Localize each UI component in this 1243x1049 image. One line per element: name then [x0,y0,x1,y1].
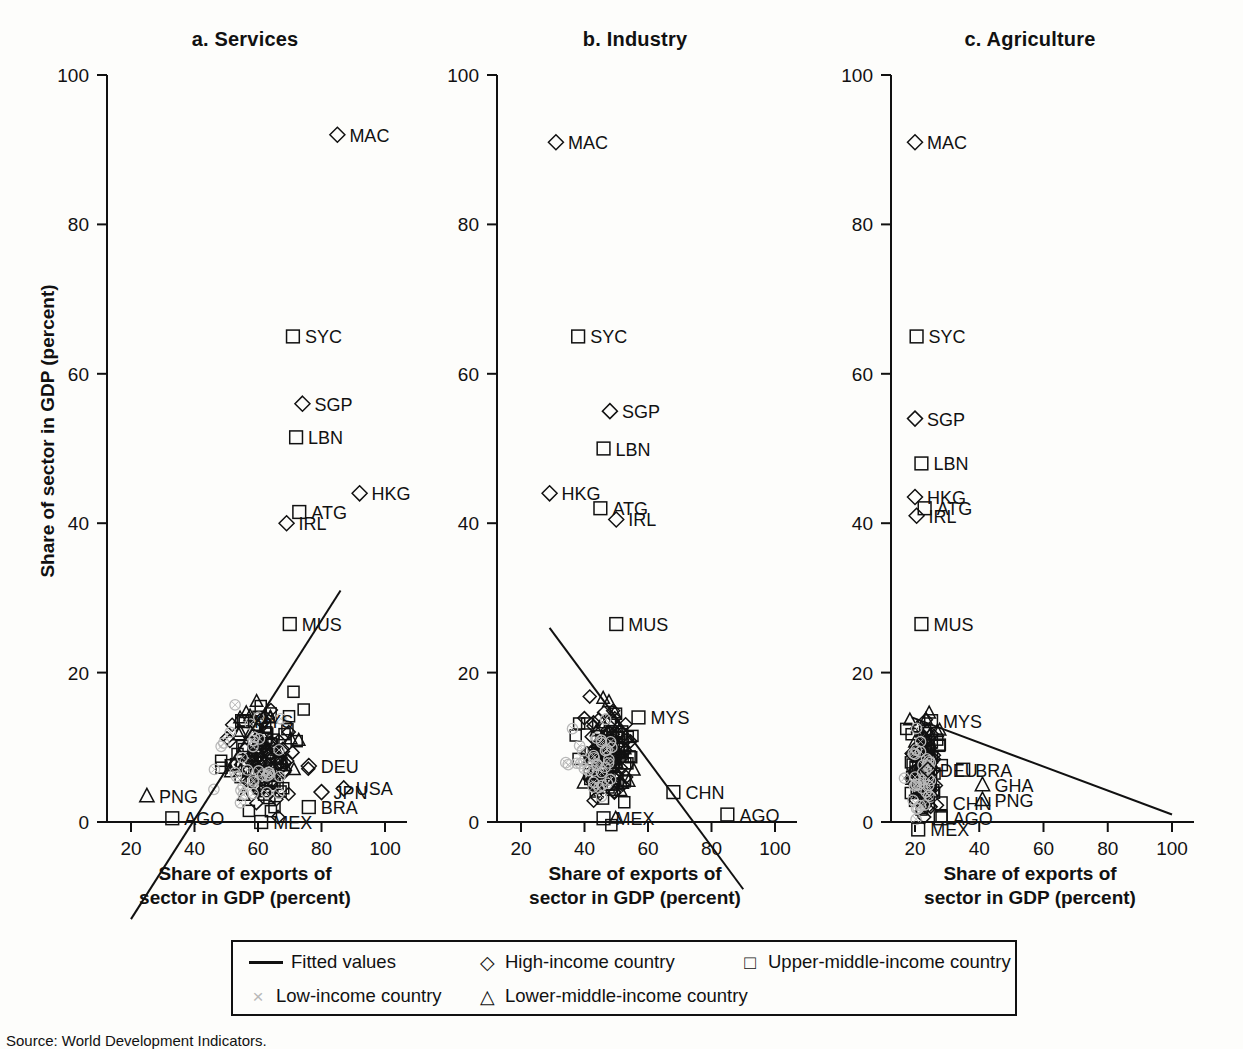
point-label: IRL [929,507,957,527]
point-label: MYS [650,708,689,728]
svg-text:40: 40 [184,838,205,859]
fitted-line-icon [249,961,283,964]
point-label: SGP [314,395,352,415]
point-label: MEX [930,820,969,840]
legend-row-1: Fitted values ◇ High-income country □ Up… [233,944,1015,980]
svg-text:80: 80 [458,214,479,235]
diamond-icon: ◇ [474,953,500,972]
point-label: MEX [273,813,312,833]
point-label: AGO [739,806,779,826]
triangle-icon: △ [474,987,500,1006]
point-label: DEU [940,761,978,781]
point-label: DEU [321,757,359,777]
legend-item-low-income: × Low-income country [245,985,474,1007]
point-label: LBN [308,428,343,448]
svg-text:20: 20 [458,663,479,684]
legend-row-2: × Low-income country △ Lower-middle-inco… [233,978,1015,1014]
fitted-line [131,590,341,919]
svg-text:100: 100 [447,65,479,86]
svg-text:60: 60 [852,364,873,385]
svg-text:20: 20 [904,838,925,859]
svg-text:100: 100 [841,65,873,86]
svg-text:60: 60 [637,838,658,859]
point-label: CHN [685,783,724,803]
svg-text:20: 20 [120,838,141,859]
svg-text:20: 20 [852,663,873,684]
svg-text:40: 40 [852,513,873,534]
legend-label-lower: Lower-middle-income country [505,985,748,1007]
point-label: SGP [622,402,660,422]
svg-text:80: 80 [311,838,332,859]
svg-text:80: 80 [68,214,89,235]
legend-label-high: High-income country [505,951,675,973]
plot-canvas: 02040608010020406080100MACSYCSGPLBNHKGAT… [0,0,1243,930]
svg-text:100: 100 [369,838,401,859]
svg-text:0: 0 [862,812,873,833]
panel-plot-services: 02040608010020406080100MACSYCSGPLBNHKGAT… [57,65,410,919]
point-label: SYC [929,327,966,347]
legend-item-high-income: ◇ High-income country [474,951,737,973]
svg-text:40: 40 [458,513,479,534]
point-label: MYS [943,712,982,732]
point-label: IRL [628,510,656,530]
point-label: MUS [302,615,342,635]
svg-text:100: 100 [759,838,791,859]
point-label: BRA [321,798,358,818]
panel-plot-agriculture: 02040608010020406080100MACSYCSGPLBNHKGAT… [841,65,1194,859]
svg-text:40: 40 [969,838,990,859]
point-label: MAC [349,126,389,146]
svg-text:0: 0 [78,812,89,833]
svg-text:0: 0 [468,812,479,833]
cross-icon: × [245,987,271,1006]
legend-item-lower-middle-income: △ Lower-middle-income country [474,985,748,1007]
panel-plot-industry: 02040608010020406080100MACSYCSGPLBNHKGAT… [447,65,797,889]
point-label: SYC [590,327,627,347]
point-label: LBN [616,440,651,460]
point-label: MAC [927,133,967,153]
svg-text:100: 100 [57,65,89,86]
point-label: LBN [933,454,968,474]
legend-item-fitted: Fitted values [249,951,474,973]
svg-text:40: 40 [68,513,89,534]
legend-item-upper-middle-income: □ Upper-middle-income country [737,951,1011,973]
legend-box: Fitted values ◇ High-income country □ Up… [231,940,1017,1016]
point-label: HKG [372,484,411,504]
point-label: MUS [628,615,668,635]
svg-text:20: 20 [510,838,531,859]
svg-text:40: 40 [574,838,595,859]
point-label: MUS [933,615,973,635]
point-label: SYC [305,327,342,347]
svg-text:20: 20 [68,663,89,684]
svg-text:80: 80 [1097,838,1118,859]
svg-text:60: 60 [1033,838,1054,859]
svg-text:60: 60 [247,838,268,859]
point-label: MEX [616,809,655,829]
legend-label-upper: Upper-middle-income country [768,951,1011,973]
source-note: Source: World Development Indicators. [6,1032,267,1049]
square-icon: □ [737,953,763,972]
point-label: PNG [159,787,198,807]
point-label: PNG [994,791,1033,811]
legend-label-fitted: Fitted values [291,951,396,973]
point-label: SGP [927,410,965,430]
svg-text:80: 80 [852,214,873,235]
point-label: MAC [568,133,608,153]
legend-label-low: Low-income country [276,985,442,1007]
svg-text:60: 60 [458,364,479,385]
svg-text:100: 100 [1156,838,1188,859]
point-label: IRL [299,514,327,534]
svg-text:60: 60 [68,364,89,385]
